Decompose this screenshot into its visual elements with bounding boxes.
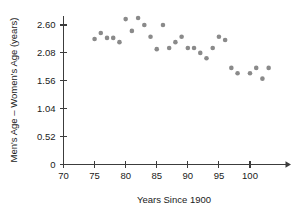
data-point [105,36,110,41]
x-tick-label: 70 [58,170,69,181]
data-point [254,66,259,71]
scatter-plot-figure: 00.521.041.562.082.60 707580859095100 Ye… [0,0,306,210]
data-point [167,46,172,51]
data-point [210,46,215,51]
y-tick-label: 2.08 [37,47,56,58]
data-point [248,71,253,76]
data-point [154,47,159,52]
data-point [92,37,97,42]
chart-canvas: 00.521.041.562.082.60 707580859095100 Ye… [0,0,306,210]
data-point [217,35,222,40]
y-tick-label: 0.52 [37,131,56,142]
data-point [179,35,184,40]
data-point [123,17,128,22]
x-tick-label: 90 [183,170,194,181]
x-axis-title: Years Since 1900 [137,194,211,205]
data-point [136,16,141,21]
x-axis-tick-labels: 707580859095100 [58,170,258,181]
data-point [260,76,265,81]
data-point [99,31,104,36]
y-axis-tick-labels: 00.521.041.562.082.60 [37,19,56,170]
data-point [148,35,153,40]
data-point [111,36,116,41]
data-point [117,40,122,45]
data-point [192,46,197,51]
data-point [142,23,147,28]
data-point [266,66,271,71]
y-tick-label: 1.56 [37,75,56,86]
y-tick-label: 0 [50,159,55,170]
x-tick-label: 80 [120,170,131,181]
data-point [229,66,234,71]
x-tick-label: 75 [89,170,100,181]
data-point [161,23,166,28]
data-point [173,40,178,45]
y-axis-title: Men's Age – Women's Age (years) [8,18,19,163]
data-point [223,38,228,43]
x-tick-label: 95 [214,170,225,181]
data-point [130,29,135,34]
x-axis-arrowhead [286,161,292,167]
data-point [186,46,191,51]
y-tick-label: 1.04 [37,103,56,114]
y-tick-label: 2.60 [37,19,56,30]
data-point [198,51,203,56]
x-tick-label: 85 [151,170,162,181]
data-point [204,56,209,61]
x-tick-label: 100 [242,170,258,181]
data-point [235,71,240,76]
data-point-group [92,16,271,81]
